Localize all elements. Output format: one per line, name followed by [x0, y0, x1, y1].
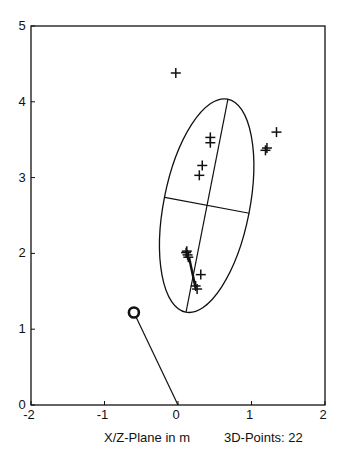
x-tick-label: -2 [23, 407, 35, 422]
y-tick-label: 2 [18, 245, 25, 260]
points-count-annotation: 3D-Points: 22 [224, 430, 303, 445]
ellipse-minor-axis [165, 197, 250, 213]
data-point [260, 145, 270, 155]
data-point [196, 270, 206, 280]
camera-direction-line [134, 313, 178, 405]
data-point [205, 138, 215, 148]
data-point [262, 143, 272, 153]
x-tick-label: 2 [319, 407, 326, 422]
x-tick-label: 1 [246, 407, 253, 422]
data-point [197, 160, 207, 170]
data-point [194, 170, 204, 180]
y-tick-label: 5 [18, 18, 25, 33]
y-tick-label: 4 [18, 94, 25, 109]
y-tick-label: 3 [18, 170, 25, 185]
data-point [183, 252, 193, 262]
x-tick-label: -1 [97, 407, 109, 422]
data-point [181, 248, 191, 258]
camera-position-marker [129, 308, 139, 318]
data-point [171, 68, 181, 78]
data-point [271, 127, 281, 137]
scatter-chart: 012345 -2-1012 X/Z-Plane in m 3D-Points:… [0, 0, 346, 461]
x-axis-label: X/Z-Plane in m [104, 430, 190, 445]
y-tick-label: 1 [18, 321, 25, 336]
x-tick-label: 0 [172, 407, 179, 422]
plot-frame [31, 26, 325, 405]
trajectory-segment [189, 257, 196, 288]
